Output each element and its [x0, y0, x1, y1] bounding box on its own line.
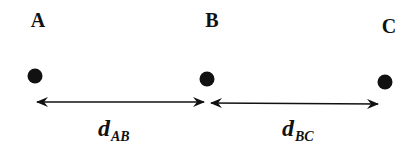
diagram-canvas: A B C dAB dBC — [0, 0, 414, 147]
point-b-dot — [200, 72, 215, 87]
distance-symbol-ab: d — [98, 115, 111, 141]
distance-subscript-ab: AB — [110, 129, 130, 144]
distance-label-bc: dBC — [282, 115, 314, 144]
diagram-svg: A B C dAB dBC — [0, 0, 414, 147]
point-a-dot — [28, 69, 43, 84]
distance-arrow-bc — [211, 103, 378, 104]
point-c-dot — [378, 75, 393, 90]
distance-subscript-bc: BC — [294, 129, 314, 144]
point-label-b: B — [205, 9, 218, 31]
distance-label-ab: dAB — [98, 115, 130, 144]
point-label-a: A — [31, 9, 46, 31]
distance-symbol-bc: d — [282, 115, 295, 141]
point-label-c: C — [382, 15, 396, 37]
